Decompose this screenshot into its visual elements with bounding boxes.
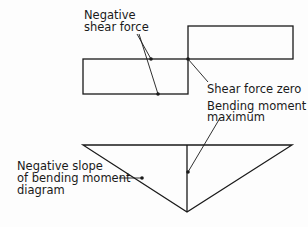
point-negative-shear-top: [149, 57, 153, 61]
negative-shear-block: [83, 59, 188, 94]
diagram-canvas: Negative shear force Shear force zero Be…: [0, 0, 308, 227]
label-negative-shear-2: shear force: [84, 20, 149, 34]
leader-shear-zero: [188, 59, 208, 82]
label-shear-force-zero: Shear force zero: [207, 82, 301, 96]
label-bending-max-2: maximum: [207, 110, 265, 124]
positive-shear-block: [188, 26, 293, 59]
diagram-svg: Negative shear force Shear force zero Be…: [0, 0, 308, 227]
point-negative-slope: [140, 176, 144, 180]
point-bending-max: [186, 170, 190, 174]
point-negative-shear-bottom: [156, 92, 160, 96]
leader-negative-shear-1: [137, 34, 151, 59]
leader-negative-shear-2: [139, 34, 158, 94]
point-shear-zero: [186, 57, 190, 61]
label-negative-slope-3: diagram: [17, 183, 65, 197]
